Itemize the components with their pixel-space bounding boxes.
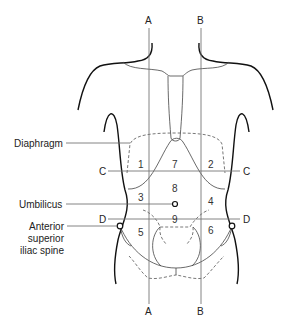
diaphragm-label: Diaphragm <box>14 138 63 149</box>
label-c-left: C <box>99 166 106 177</box>
pelvic-brim-outline <box>120 226 232 268</box>
umbilicus-label: Umbilicus <box>19 199 62 210</box>
asis-right-marker <box>229 223 235 229</box>
left-torso-outline <box>104 114 127 284</box>
region-1: 1 <box>138 159 144 170</box>
label-b-top: B <box>197 15 204 26</box>
umbilicus-marker <box>173 202 178 207</box>
right-torso-outline <box>226 114 249 284</box>
abdominal-regions-diagram: A B A B C C D D 1 7 2 8 3 4 9 5 6 Diaphr… <box>0 0 281 326</box>
region-9: 9 <box>172 214 178 225</box>
sternum-outline <box>168 76 183 141</box>
clavicle-outline <box>123 62 229 76</box>
label-b-bottom: B <box>197 306 204 317</box>
region-4: 4 <box>208 196 214 207</box>
asis-label-line1: Anterior <box>29 221 65 232</box>
left-shoulder-outline <box>78 43 152 110</box>
region-5: 5 <box>138 227 144 238</box>
right-shoulder-outline <box>199 43 273 110</box>
region-3: 3 <box>138 192 144 203</box>
asis-left-marker <box>117 223 123 229</box>
label-c-right: C <box>243 166 250 177</box>
region-7: 7 <box>172 159 178 170</box>
region-6: 6 <box>208 225 214 236</box>
asis-label-line3: iliac spine <box>20 245 64 256</box>
label-a-bottom: A <box>145 306 152 317</box>
label-a-top: A <box>145 15 152 26</box>
region-2: 2 <box>208 159 214 170</box>
region-8: 8 <box>172 183 178 194</box>
label-d-right: D <box>243 214 250 225</box>
label-d-left: D <box>99 214 106 225</box>
asis-label-line2: superior <box>28 233 65 244</box>
